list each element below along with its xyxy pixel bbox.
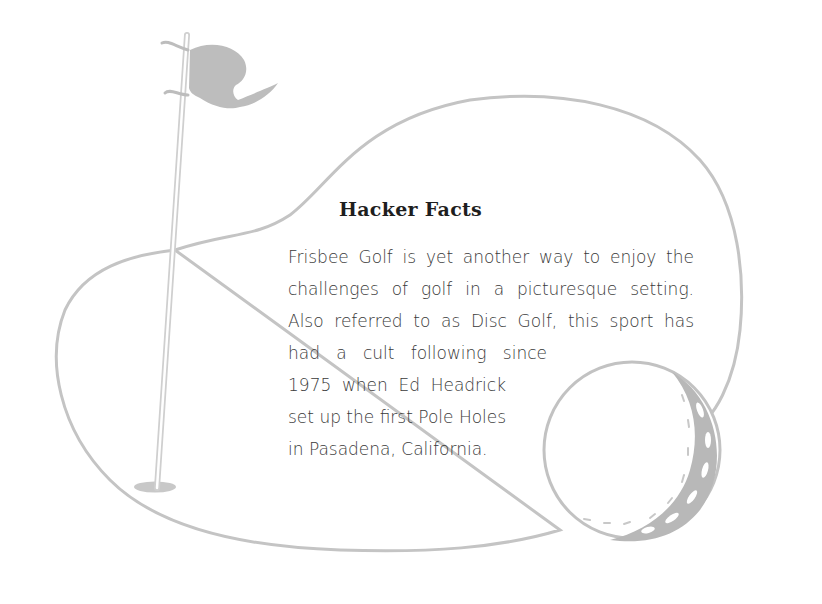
flag-icon <box>162 42 278 108</box>
fact-line: challenges of golf in a picturesque sett… <box>288 273 694 305</box>
golf-ball-icon <box>544 362 720 541</box>
fact-text-wrapped: had a cult following since 1975 when Ed … <box>288 337 547 465</box>
fact-line: had a cult following since <box>288 337 547 369</box>
fact-line: Also referred to as Disc Golf, this spor… <box>288 305 694 337</box>
fact-title: Hacker Facts <box>339 198 539 220</box>
fact-line: set up the first Pole Holes <box>288 401 547 433</box>
hacker-facts-illustration: Hacker Facts Frisbee Golf is yet another… <box>0 0 822 604</box>
fact-text-full: Frisbee Golf is yet another way to enjoy… <box>288 241 694 337</box>
fact-line: Frisbee Golf is yet another way to enjoy… <box>288 241 694 273</box>
flagstick-icon <box>157 35 187 488</box>
fact-line: in Pasadena, California. <box>288 433 547 465</box>
fact-line: 1975 when Ed Headrick <box>288 369 506 401</box>
